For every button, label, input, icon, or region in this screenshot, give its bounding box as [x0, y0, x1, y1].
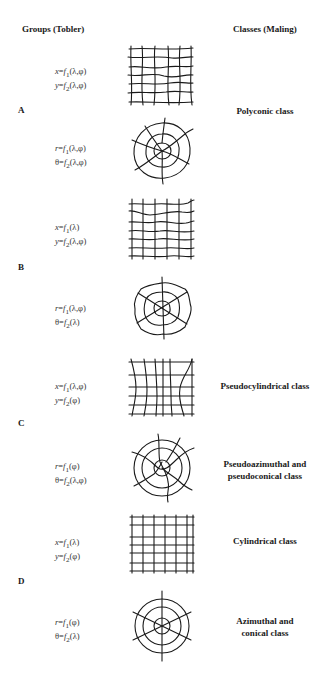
formula-row-7: x=f1(λ) y=f2(φ): [55, 537, 125, 565]
formula-line: θ=f2(λ): [55, 317, 125, 331]
group-letter-d: D: [18, 576, 25, 586]
formula-line: x=f1(λ): [55, 537, 125, 551]
pseudoazimuthal-grid-figure: [128, 432, 196, 504]
irregular-grid-figure: [126, 45, 196, 107]
formula-row-2: r=f1(λ,φ) θ=f2(λ,φ): [55, 143, 125, 171]
formula-line: x=f1(λ,φ): [55, 66, 125, 80]
formula-row-4: r=f1(λ,φ) θ=f2(λ): [55, 303, 125, 331]
class-label-cylindrical: Cylindrical class: [210, 535, 320, 547]
group-letter-b: B: [18, 262, 24, 272]
class-label-pseudoazimuthal: Pseudoazimuthal and pseudoconical class: [210, 458, 320, 482]
formula-line: y=f2(λ,φ): [55, 236, 125, 250]
formula-row-1: x=f1(λ,φ) y=f2(λ,φ): [55, 66, 125, 94]
formula-line: θ=f2(λ): [55, 631, 125, 645]
formula-row-8: r=f1(φ) θ=f2(λ): [55, 617, 125, 645]
class-label-azimuthal: Azimuthal and conical class: [210, 615, 320, 639]
formula-line: r=f1(λ,φ): [55, 303, 125, 317]
formula-line: y=f2(φ): [55, 395, 125, 409]
formula-row-5: x=f1(λ,φ) y=f2(φ): [55, 381, 125, 409]
classes-header: Classes (Maling): [233, 24, 297, 34]
irregular-polar-grid-figure: [129, 118, 195, 186]
polar-wavy-circles-figure: [129, 275, 195, 343]
formula-line: θ=f2(λ,φ): [55, 475, 125, 489]
formula-line: x=f1(λ,φ): [55, 381, 125, 395]
formula-line: x=f1(λ): [55, 222, 125, 236]
rectangular-grid-figure: [128, 514, 196, 574]
formula-line: r=f1(φ): [55, 617, 125, 631]
pseudocylindrical-grid-figure: [126, 356, 196, 418]
class-label-pseudocylindrical: Pseudocylindrical class: [210, 380, 320, 392]
concentric-radial-grid-figure: [128, 590, 196, 662]
formula-line: y=f2(φ): [55, 551, 125, 565]
formula-line: r=f1(λ,φ): [55, 143, 125, 157]
formula-line: θ=f2(λ,φ): [55, 157, 125, 171]
group-letter-c: C: [18, 418, 25, 428]
group-letter-a: A: [18, 105, 25, 115]
class-label-polyconic: Polyconic class: [210, 105, 320, 117]
formula-row-3: x=f1(λ) y=f2(λ,φ): [55, 222, 125, 250]
grid-wavy-parallels-figure: [126, 198, 196, 260]
formula-line: y=f2(λ,φ): [55, 80, 125, 94]
formula-row-6: r=f1(φ) θ=f2(λ,φ): [55, 461, 125, 489]
formula-line: r=f1(φ): [55, 461, 125, 475]
groups-header: Groups (Tobler): [22, 24, 84, 34]
